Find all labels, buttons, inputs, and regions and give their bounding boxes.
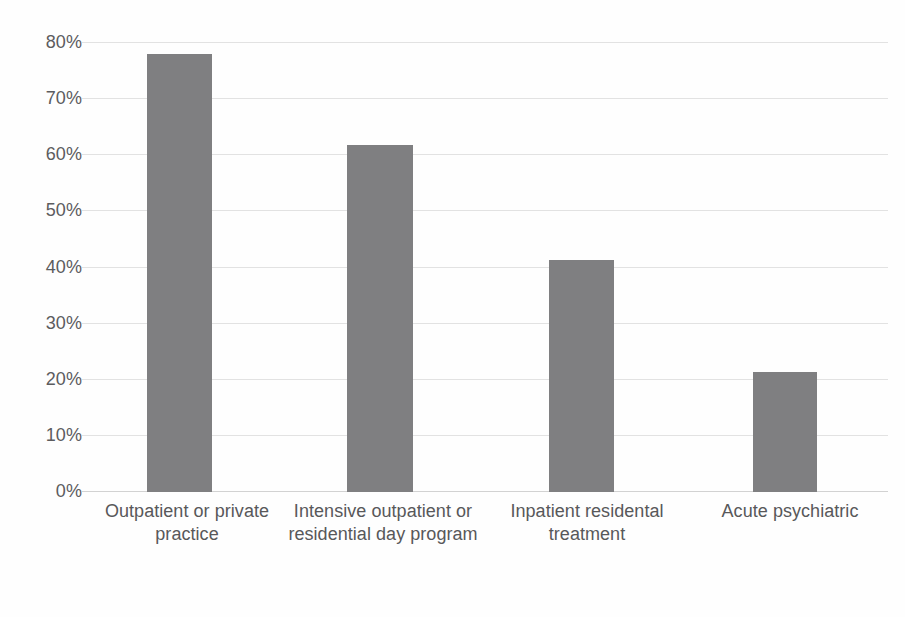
- y-tick-label: 20%: [8, 370, 82, 388]
- bar-outpatient-or-private-practice: [147, 54, 212, 492]
- gridline-80: [82, 42, 888, 43]
- y-tick-label: 50%: [8, 201, 82, 219]
- x-axis: Outpatient or private practice Intensive…: [82, 500, 888, 610]
- bar-inpatient-residental-treatment: [549, 260, 614, 492]
- y-tick-label: 70%: [8, 89, 82, 107]
- x-tick-label-acute-psychiatric: Acute psychiatric: [692, 500, 888, 523]
- bar-intensive-outpatient-or-residential-day-program: [347, 145, 413, 492]
- y-tick-label: 80%: [8, 33, 82, 51]
- x-tick-label-outpatient-or-private-practice: Outpatient or private practice: [82, 500, 292, 546]
- y-tick-label: 30%: [8, 314, 82, 332]
- bar-chart: 80% 70% 60% 50% 40% 30% 20% 10% 0% Outpa…: [0, 0, 905, 617]
- plot-area: [82, 42, 888, 492]
- y-tick-label: 60%: [8, 145, 82, 163]
- bar-acute-psychiatric: [753, 372, 817, 492]
- x-tick-label-intensive-outpatient-or-residential-day-program: Intensive outpatient or residential day …: [285, 500, 481, 546]
- x-tick-label-inpatient-residental-treatment: Inpatient residental treatment: [487, 500, 687, 546]
- y-tick-label: 0%: [8, 482, 82, 500]
- y-axis: 80% 70% 60% 50% 40% 30% 20% 10% 0%: [0, 42, 82, 492]
- y-tick-label: 40%: [8, 258, 82, 276]
- y-tick-label: 10%: [8, 426, 82, 444]
